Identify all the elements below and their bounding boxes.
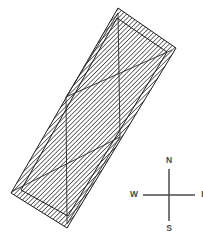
compass-label-north: N xyxy=(166,155,172,165)
floor-plan-drawing: N E S W xyxy=(0,0,203,241)
figure-canvas: N E S W xyxy=(0,0,203,241)
compass-label-east: E xyxy=(201,189,203,199)
wall-band-group xyxy=(0,0,203,241)
compass-label-west: W xyxy=(130,189,139,199)
compass-label-south: S xyxy=(166,223,172,233)
